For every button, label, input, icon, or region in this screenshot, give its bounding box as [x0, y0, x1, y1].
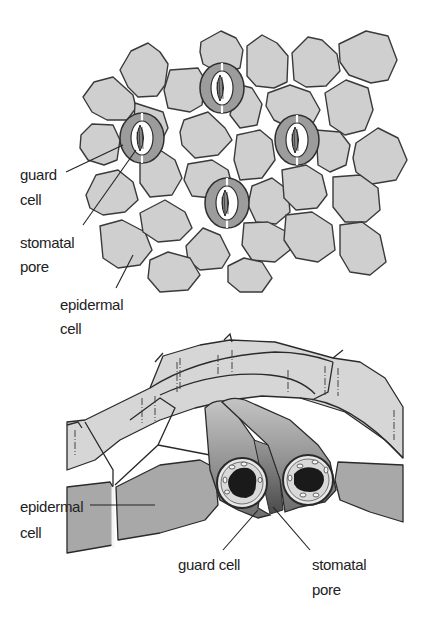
epidermal-cell [282, 165, 327, 210]
epidermal-cell [86, 170, 138, 215]
surface-view: guard cell stomatal pore epidermal cell [20, 31, 407, 337]
epidermal-cell-lower-right [335, 462, 403, 522]
label-xs-stomatal-pore-2: pore [312, 581, 341, 598]
epidermal-cell [292, 37, 340, 87]
label-epidermal-cell-1: epidermal [60, 296, 123, 313]
label-xs-epidermal-cell-2: cell [20, 524, 41, 541]
nucleus [294, 467, 324, 492]
epidermal-cell-lower-middle [116, 460, 218, 540]
label-epidermal-cell-2: cell [60, 320, 81, 337]
epidermal-cells-surface [80, 31, 407, 292]
stoma [200, 63, 244, 113]
guard-cell-right-section [283, 455, 333, 505]
guard-cell-leader-xs [223, 510, 258, 550]
label-xs-epidermal-cell-1: epidermal [20, 498, 83, 515]
epidermal-cell [242, 222, 290, 262]
stomata-diagram: guard cell stomatal pore epidermal cell [0, 0, 427, 619]
label-stomatal-pore-2: pore [20, 258, 49, 275]
label-guard-cell-2: cell [20, 191, 41, 208]
epidermal-cell [228, 258, 272, 292]
epidermal-cell [164, 68, 205, 112]
guard-cell-left-section [217, 458, 267, 508]
epidermal-cell [180, 112, 232, 158]
epidermal-cell [340, 222, 386, 275]
label-xs-guard-cell: guard cell [178, 556, 240, 573]
stoma [205, 178, 249, 228]
epidermal-cell-lower-left [67, 482, 113, 553]
label-xs-stomatal-pore-1: stomatal [312, 556, 366, 573]
epidermal-cell [80, 124, 120, 165]
stoma [275, 115, 319, 165]
epidermal-cell [234, 130, 275, 180]
label-guard-cell-1: guard [20, 166, 57, 183]
epidermal-cell [325, 80, 373, 135]
epidermal-cell [339, 31, 397, 83]
epidermal-cell [140, 200, 192, 242]
epidermal-cell [316, 130, 350, 172]
label-stomatal-pore-1: stomatal [20, 234, 74, 251]
stomatal-pore-leader-xs [273, 507, 310, 550]
cell-boundary [158, 445, 210, 455]
stoma [120, 113, 164, 163]
epidermal-cell [284, 212, 335, 262]
cross-section: epidermal cell guard cell stomatal pore [20, 334, 403, 598]
epidermal-cell [247, 35, 288, 88]
